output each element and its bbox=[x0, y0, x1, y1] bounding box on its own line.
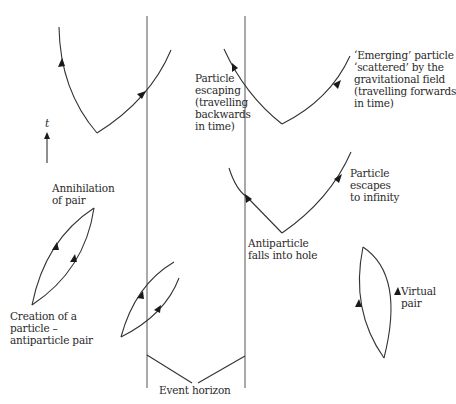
pair-creation-annihilation bbox=[32, 208, 94, 305]
label-emerging-particle: ‘Emerging’ particle ‘scattered’ by the g… bbox=[354, 49, 456, 109]
time-axis-arrow-icon bbox=[44, 132, 50, 163]
pair-middle bbox=[229, 152, 351, 233]
label-creation-pair: Creation of a particle – antiparticle pa… bbox=[10, 310, 93, 346]
label-event-horizon: Event horizon bbox=[159, 384, 231, 396]
label-particle-escapes-infinity: Particle escapes to infinity bbox=[350, 167, 399, 203]
arrow-icon bbox=[58, 58, 65, 67]
arrow-icon bbox=[137, 291, 144, 299]
arrow-icon bbox=[137, 91, 146, 99]
pair-lower-horizon bbox=[121, 262, 179, 337]
arrow-icon bbox=[333, 80, 341, 89]
virtual-pair bbox=[355, 247, 401, 358]
label-virtual-pair: Virtual pair bbox=[401, 285, 436, 309]
pair-top-left bbox=[58, 27, 171, 133]
label-annihilation: Annihilation of pair bbox=[52, 182, 114, 206]
arrow-icon bbox=[70, 254, 77, 262]
event-horizon-pointer-left bbox=[147, 355, 192, 383]
event-horizon-pointer-right bbox=[198, 356, 245, 383]
arrow-icon bbox=[394, 287, 401, 295]
time-axis-label: t bbox=[45, 117, 49, 129]
label-antiparticle-falls: Antiparticle falls into hole bbox=[248, 237, 317, 261]
label-particle-escaping-backwards: Particle escaping (travelling backwards … bbox=[195, 72, 251, 132]
